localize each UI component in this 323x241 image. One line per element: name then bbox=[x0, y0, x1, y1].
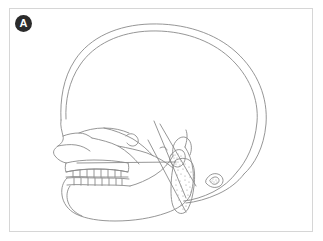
figure-frame bbox=[9, 8, 313, 232]
figure-root: A bbox=[0, 0, 323, 241]
panel-label-badge: A bbox=[15, 15, 32, 32]
